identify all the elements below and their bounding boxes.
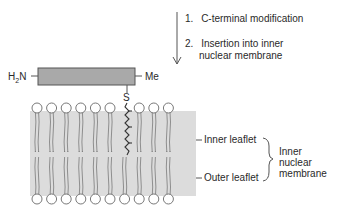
step-1-number: 1. — [185, 13, 193, 24]
inner-leaflet-label: Inner leaflet — [204, 134, 256, 145]
membrane-name-line1: Inner — [279, 146, 302, 157]
outer-leaflet-label: Outer leaflet — [204, 172, 258, 183]
process-arrow — [173, 12, 181, 64]
step-2-number: 2. — [185, 38, 193, 49]
n-terminus-label: H2N — [8, 71, 26, 86]
step-1: 1. C-terminal modification — [185, 13, 303, 24]
diagram-canvas — [0, 0, 341, 214]
c-terminus-label: Me — [145, 71, 159, 82]
membrane-brace — [263, 138, 273, 181]
protein — [31, 68, 142, 93]
membrane-name-line2: nuclear — [279, 157, 312, 168]
step-2: 2. Insertion into inner — [185, 38, 283, 49]
membrane-core — [30, 111, 196, 196]
step-1-text: C-terminal modification — [201, 13, 303, 24]
sulfur-label: S — [123, 92, 130, 103]
step-2-text-line2: nuclear membrane — [199, 50, 282, 61]
membrane-name-line3: membrane — [279, 168, 327, 179]
step-2-text: Insertion into inner — [201, 38, 283, 49]
